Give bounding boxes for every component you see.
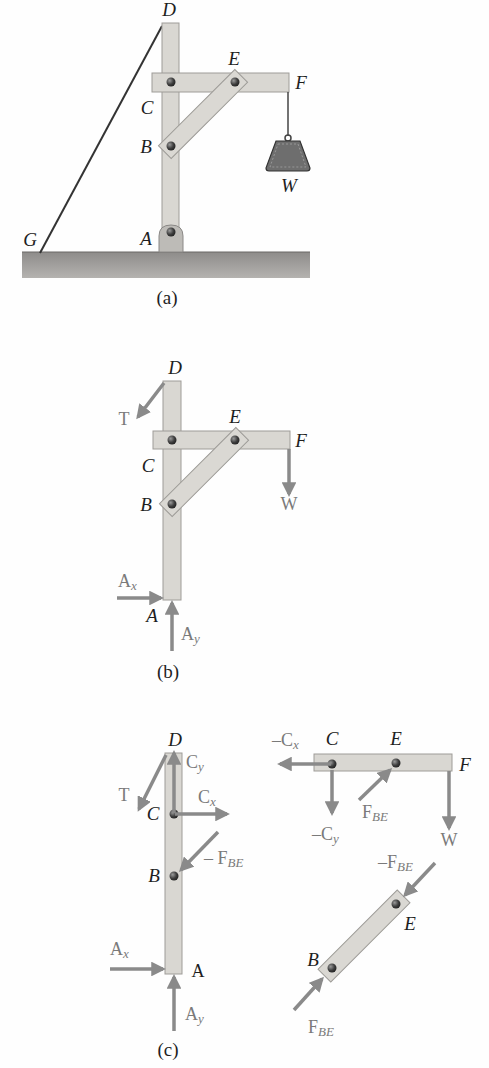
label-a-c: A	[192, 961, 205, 981]
label-f-cf: F	[458, 754, 471, 775]
caption-a: (a)	[156, 287, 177, 309]
label-e-cf: E	[389, 728, 402, 749]
part-a-assembly: D E F C B W G A (a)	[22, 0, 310, 309]
ground	[22, 252, 310, 278]
force-t-arrow-c	[139, 755, 166, 809]
label-b-be: B	[307, 949, 319, 970]
pin-b-b	[168, 500, 177, 509]
pin-e-cf	[392, 759, 401, 768]
label-e-b: E	[228, 406, 241, 427]
force-neg-cx-label: –Cx	[271, 730, 299, 752]
force-ax-label-c: Ax	[110, 939, 129, 961]
label-e: E	[227, 48, 240, 69]
label-c-cf: C	[326, 728, 339, 749]
force-cy-label: Cy	[186, 752, 204, 774]
label-d-b: D	[167, 357, 182, 378]
force-neg-cy-label: –Cy	[311, 824, 339, 846]
label-a: A	[138, 228, 152, 249]
label-w: W	[281, 175, 299, 196]
force-w-label: W	[281, 494, 298, 514]
label-c: C	[141, 97, 154, 118]
pin-b-c	[170, 872, 179, 881]
pin-e	[231, 78, 240, 87]
part-b-free-body: D E F C B A T W Ax Ay (b)	[117, 357, 307, 683]
force-ay-label-c: Ay	[185, 1004, 204, 1026]
force-cx-label: Cx	[198, 787, 216, 809]
label-e-be: E	[403, 913, 416, 934]
label-b: B	[140, 136, 152, 157]
pin-b-be	[328, 964, 337, 973]
label-d: D	[161, 0, 176, 20]
label-g: G	[23, 229, 37, 250]
force-fbe-label-cf: FBE	[362, 802, 388, 824]
force-ax-label: Ax	[118, 571, 137, 593]
pin-c	[167, 78, 176, 87]
label-f-b: F	[294, 430, 307, 451]
pin-b	[167, 142, 176, 151]
force-fbe-arrow-be	[294, 979, 322, 1010]
part-c-member-diagrams: D C B A T Cy Cx – FBE Ax Ay C E F –Cx –C…	[110, 728, 471, 1061]
force-t-label-c: T	[119, 785, 130, 805]
force-t-label: T	[119, 409, 130, 429]
caption-c: (c)	[157, 1039, 178, 1061]
label-c-c: C	[147, 803, 160, 824]
pin-e-be	[392, 900, 401, 909]
force-ay-label: Ay	[181, 624, 200, 646]
force-neg-fbe-label-be: –FBE	[377, 852, 413, 874]
label-b-b: B	[140, 494, 152, 515]
label-f: F	[294, 72, 307, 93]
frame-free-body-diagram: D E F C B W G A (a) D E F C B A T W Ax A…	[0, 0, 489, 1068]
force-w-label-c: W	[441, 830, 458, 850]
pin-e-b	[231, 436, 240, 445]
weight-block	[266, 141, 310, 171]
pin-a	[167, 228, 176, 237]
force-fbe-label-be: FBE	[308, 1017, 334, 1039]
force-t-arrow	[138, 383, 164, 417]
label-a-b: A	[144, 605, 158, 626]
force-fbe-arrow-cf	[359, 770, 390, 800]
diagram-svg: D E F C B W G A (a) D E F C B A T W Ax A…	[0, 0, 489, 1068]
force-neg-fbe-label-ad: – FBE	[203, 848, 243, 870]
caption-b: (b)	[157, 661, 179, 683]
pin-c-b	[168, 436, 177, 445]
label-d-c: D	[167, 729, 182, 750]
label-c-b: C	[142, 455, 155, 476]
label-b-c: B	[148, 865, 160, 886]
